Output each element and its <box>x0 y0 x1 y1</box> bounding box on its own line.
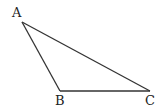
vertex-label-c: C <box>145 93 155 108</box>
vertex-label-b: B <box>55 93 65 108</box>
triangle-diagram: A B C <box>0 0 166 110</box>
vertex-label-a: A <box>11 5 22 20</box>
